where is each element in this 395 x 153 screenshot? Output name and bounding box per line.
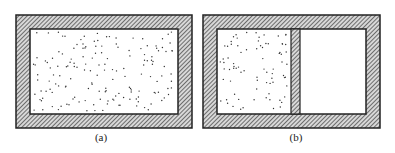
container-interior	[30, 29, 178, 114]
panel-label-a: (a)	[81, 131, 121, 143]
container-a-no-partition	[16, 15, 192, 128]
container-b-with-partition	[203, 15, 380, 128]
gas-expansion-diagram	[0, 0, 395, 153]
panel-label-b: (b)	[276, 131, 316, 143]
partition-wall	[291, 29, 300, 114]
